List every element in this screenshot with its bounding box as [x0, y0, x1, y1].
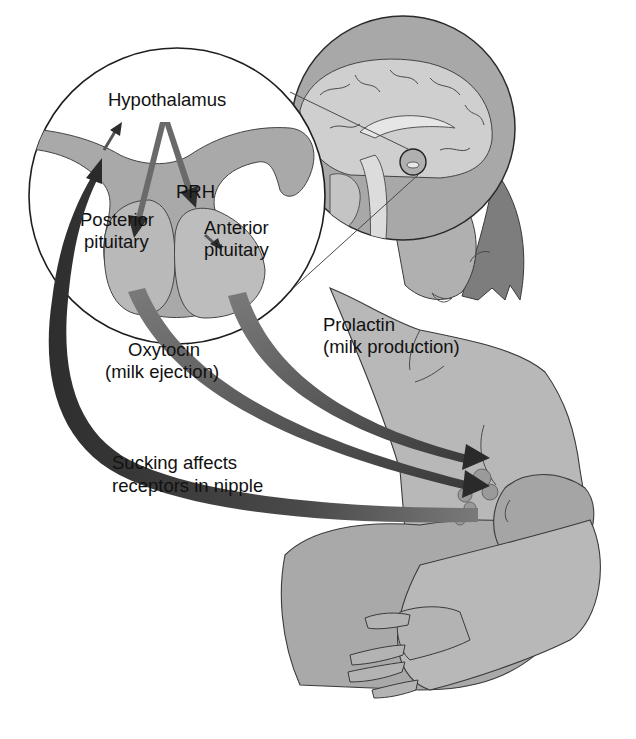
lactation-hormone-diagram: Hypothalamus PRH Posterior pituitary Ant… [0, 0, 636, 739]
label-prolactin-function: (milk production) [323, 336, 460, 357]
label-posterior-2: pituitary [84, 231, 150, 252]
label-prolactin: Prolactin [323, 314, 395, 335]
label-sucking: Sucking affects [112, 452, 237, 473]
label-sucking-receptors: receptors in nipple [112, 475, 263, 496]
label-prh: PRH [176, 181, 215, 202]
label-oxytocin-function: (milk ejection) [105, 361, 219, 382]
label-anterior-1: Anterior [204, 217, 269, 238]
label-hypothalamus: Hypothalamus [108, 89, 226, 110]
mother-figure [281, 170, 600, 698]
label-oxytocin: Oxytocin [128, 339, 200, 360]
label-anterior-2: pituitary [204, 239, 270, 260]
label-posterior-1: Posterior [80, 209, 154, 230]
